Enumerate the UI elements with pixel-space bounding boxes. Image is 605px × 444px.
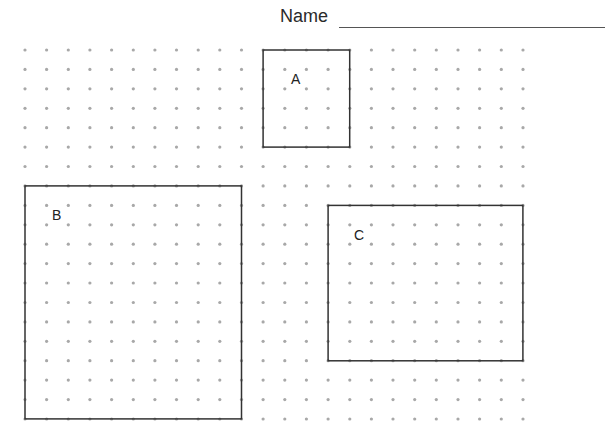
grid-dot [45, 126, 48, 129]
grid-dot [413, 68, 416, 71]
grid-dot [391, 165, 394, 168]
grid-dot [88, 107, 91, 110]
grid-dot [67, 379, 70, 382]
grid-dot [327, 417, 330, 420]
grid-dot [348, 301, 351, 304]
grid-dot [67, 398, 70, 401]
grid-dot [67, 87, 70, 90]
grid-dot [305, 281, 308, 284]
grid-dot [283, 107, 286, 110]
grid-dot [45, 146, 48, 149]
grid-dot [391, 223, 394, 226]
grid-dot [262, 165, 265, 168]
grid-dot [413, 243, 416, 246]
grid-dot [218, 126, 221, 129]
grid-dot [500, 48, 503, 51]
grid-dot [370, 243, 373, 246]
grid-dot [67, 359, 70, 362]
grid-dot [283, 243, 286, 246]
grid-dot [240, 165, 243, 168]
grid-dot [132, 204, 135, 207]
grid-dot [153, 165, 156, 168]
grid-dot [153, 107, 156, 110]
grid-dot [197, 262, 200, 265]
grid-dot [456, 184, 459, 187]
grid-dot [153, 379, 156, 382]
grid-dot [283, 398, 286, 401]
grid-dot [456, 243, 459, 246]
grid-dot [153, 281, 156, 284]
grid-dot [521, 107, 524, 110]
grid-dot [110, 223, 113, 226]
grid-dot [67, 204, 70, 207]
grid-dot [175, 340, 178, 343]
grid-dot [413, 262, 416, 265]
grid-dot [153, 359, 156, 362]
grid-dot [175, 359, 178, 362]
grid-dot [218, 281, 221, 284]
grid-dot [500, 417, 503, 420]
grid-dot [132, 107, 135, 110]
grid-dot [521, 68, 524, 71]
grid-dot [262, 262, 265, 265]
grid-dot [521, 126, 524, 129]
grid-dot [67, 281, 70, 284]
grid-dot [132, 48, 135, 51]
grid-dot [305, 126, 308, 129]
grid-dot [88, 48, 91, 51]
grid-dot [197, 281, 200, 284]
grid-dot [500, 398, 503, 401]
grid-dot [175, 107, 178, 110]
grid-dot [218, 379, 221, 382]
grid-dot [370, 320, 373, 323]
grid-dot [327, 379, 330, 382]
grid-dot [110, 107, 113, 110]
grid-dot [435, 243, 438, 246]
grid-dot [305, 165, 308, 168]
grid-dot [305, 184, 308, 187]
grid-dot [240, 126, 243, 129]
grid-dot [88, 340, 91, 343]
grid-dot [500, 301, 503, 304]
grid-dot [218, 301, 221, 304]
grid-dot [478, 87, 481, 90]
grid-dot [348, 340, 351, 343]
grid-dot [262, 243, 265, 246]
grid-dot [45, 262, 48, 265]
grid-dot [478, 398, 481, 401]
grid-dot [435, 320, 438, 323]
grid-dot [88, 165, 91, 168]
grid-dot [478, 223, 481, 226]
grid-dot [478, 262, 481, 265]
rectangle-label-b: B [52, 208, 61, 222]
grid-dot [391, 146, 394, 149]
grid-dot [391, 320, 394, 323]
grid-dot [370, 68, 373, 71]
grid-dot [348, 184, 351, 187]
grid-dot [500, 68, 503, 71]
grid-dot [435, 379, 438, 382]
grid-dot [197, 320, 200, 323]
grid-dot [132, 87, 135, 90]
grid-dot [110, 204, 113, 207]
grid-dot [413, 223, 416, 226]
grid-dot [500, 223, 503, 226]
grid-dot [23, 126, 26, 129]
grid-dot [456, 68, 459, 71]
grid-dot [88, 68, 91, 71]
grid-dot [240, 68, 243, 71]
grid-dot [500, 320, 503, 323]
grid-dot [45, 320, 48, 323]
grid-dot [88, 243, 91, 246]
grid-dot [305, 301, 308, 304]
grid-dot [197, 379, 200, 382]
grid-dot [218, 359, 221, 362]
grid-dot [132, 126, 135, 129]
grid-dot [435, 68, 438, 71]
grid-dot [67, 146, 70, 149]
grid-dot [435, 146, 438, 149]
grid-dot [45, 223, 48, 226]
grid-dot [500, 126, 503, 129]
grid-dot [45, 68, 48, 71]
grid-dot [348, 243, 351, 246]
